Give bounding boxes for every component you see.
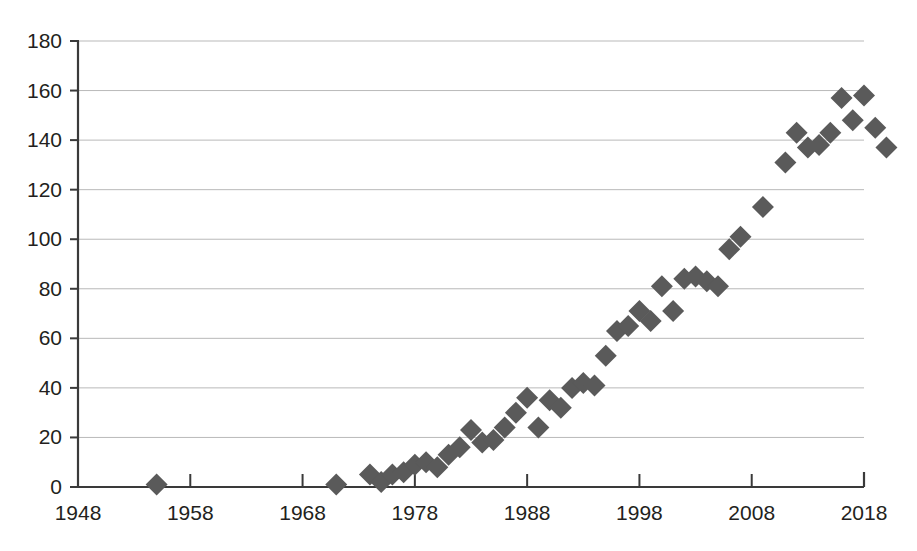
x-tick-label-1998: 1998 xyxy=(616,501,663,524)
y-tick-labels-group: 020406080100120140160180 xyxy=(27,29,62,498)
x-tick-labels-group: 19481958196819781988199820082018 xyxy=(55,501,888,524)
y-tick-label-80: 80 xyxy=(39,277,62,300)
data-point xyxy=(325,474,347,496)
x-tick-label-1978: 1978 xyxy=(391,501,438,524)
y-tick-label-0: 0 xyxy=(50,475,62,498)
data-point xyxy=(853,85,875,107)
y-tick-label-40: 40 xyxy=(39,376,62,399)
y-tick-label-180: 180 xyxy=(27,29,62,52)
data-point xyxy=(752,196,774,218)
y-tick-label-20: 20 xyxy=(39,425,62,448)
x-tick-label-2008: 2008 xyxy=(728,501,775,524)
y-tick-label-120: 120 xyxy=(27,178,62,201)
data-point xyxy=(146,474,168,496)
data-point xyxy=(875,137,897,159)
scatter-chart: 020406080100120140160180 194819581968197… xyxy=(0,0,917,551)
x-tick-label-1958: 1958 xyxy=(167,501,214,524)
x-tickmarks-group xyxy=(190,474,751,486)
x-tick-label-1988: 1988 xyxy=(504,501,551,524)
chart-canvas: 020406080100120140160180 194819581968197… xyxy=(0,0,917,551)
y-tick-label-160: 160 xyxy=(27,79,62,102)
y-tick-label-140: 140 xyxy=(27,128,62,151)
data-point xyxy=(595,345,617,367)
data-point xyxy=(864,117,886,139)
data-point xyxy=(774,151,796,173)
data-point xyxy=(527,417,549,439)
x-tick-label-1948: 1948 xyxy=(55,501,102,524)
y-tick-label-100: 100 xyxy=(27,227,62,250)
data-point xyxy=(662,300,684,322)
data-markers-group xyxy=(146,85,898,496)
data-point xyxy=(842,109,864,131)
data-point xyxy=(651,275,673,297)
y-tick-label-60: 60 xyxy=(39,326,62,349)
x-tick-label-2018: 2018 xyxy=(841,501,888,524)
x-tick-label-1968: 1968 xyxy=(279,501,326,524)
